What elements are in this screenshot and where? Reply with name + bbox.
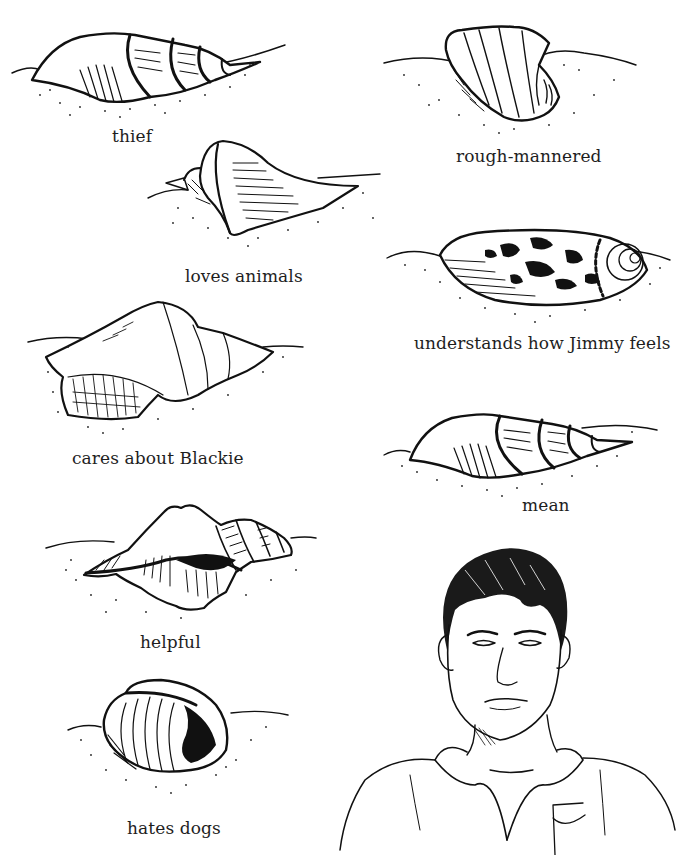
- bubble-shell-icon: [66, 675, 296, 800]
- shell-mean: [382, 400, 662, 500]
- label-loves-animals: loves animals: [185, 266, 303, 286]
- shell-hates-dogs: [66, 675, 296, 800]
- label-understands: understands how Jimmy feels: [414, 333, 671, 353]
- auger-shell-icon: [10, 25, 270, 125]
- portrait-jimmy: [335, 530, 685, 855]
- shell-thief: [10, 25, 270, 125]
- flared-conch-icon: [148, 138, 388, 253]
- shell-loves-animals: [148, 138, 388, 253]
- shell-understands: [385, 220, 685, 330]
- spiky-conch-icon: [46, 500, 316, 625]
- shell-helpful: [46, 500, 316, 625]
- label-hates-dogs: hates dogs: [127, 818, 221, 838]
- auger-shell-icon: [382, 400, 662, 500]
- shell-rough-mannered: [384, 25, 669, 140]
- label-cares-about-blackie: cares about Blackie: [72, 448, 244, 468]
- label-thief: thief: [112, 126, 152, 146]
- label-helpful: helpful: [140, 632, 201, 652]
- spotted-cone-icon: [385, 220, 685, 330]
- shell-cares-about-blackie: [28, 297, 303, 437]
- ribbed-conch-icon: [384, 25, 669, 140]
- label-mean: mean: [522, 495, 570, 515]
- portrait-man-icon: [335, 530, 685, 855]
- label-rough-mannered: rough-mannered: [456, 146, 602, 166]
- whelk-shell-icon: [28, 297, 303, 437]
